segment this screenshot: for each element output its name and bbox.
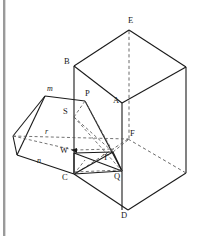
vertex-label-S: S bbox=[63, 107, 68, 116]
edge-B-E bbox=[74, 30, 129, 66]
vertex-label-F: F bbox=[130, 129, 135, 138]
line-S-P-hidden bbox=[74, 101, 85, 117]
edge-E-rightback bbox=[129, 30, 186, 67]
line-r-L1-to-right bbox=[13, 136, 128, 139]
edge-F-rightbottom-hidden bbox=[128, 139, 186, 173]
vertex-label-B: B bbox=[64, 57, 70, 66]
edge-m-P bbox=[45, 96, 85, 101]
prism-solid-edges bbox=[74, 30, 186, 210]
vertex-label-Q: Q bbox=[114, 172, 120, 181]
line-T-F-hidden bbox=[113, 140, 128, 152]
vertex-label-D: D bbox=[121, 211, 127, 220]
vertex-label-A: A bbox=[113, 96, 119, 105]
edge-D-rightbottom bbox=[128, 173, 186, 210]
line-S-T-hidden bbox=[74, 117, 113, 152]
edge-label-r: r bbox=[45, 128, 48, 136]
vertex-label-E: E bbox=[128, 16, 133, 25]
geometry-figure-svg bbox=[0, 0, 197, 236]
wedge-hidden-construction-lines bbox=[13, 101, 128, 174]
line-W-T-parallel-hidden bbox=[75, 149, 114, 150]
edge-L1-L2 bbox=[13, 136, 17, 155]
vertex-label-P: P bbox=[85, 89, 90, 98]
vertex-label-C: C bbox=[62, 173, 68, 182]
edge-label-n: n bbox=[37, 157, 41, 165]
edge-label-m: m bbox=[47, 85, 53, 93]
vertex-label-W: W bbox=[60, 146, 68, 155]
diagram-canvas: E B A F D C Q P S T W m r n bbox=[0, 0, 197, 236]
vertex-label-T: T bbox=[103, 153, 108, 162]
edge-rightback-A bbox=[122, 67, 186, 103]
